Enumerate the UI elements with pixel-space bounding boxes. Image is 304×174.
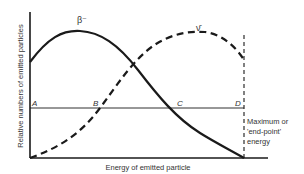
point-c-label: C bbox=[177, 99, 183, 108]
point-d-label: D bbox=[235, 99, 241, 108]
endpoint-annotation-line2: 'end-point' bbox=[247, 127, 282, 136]
endpoint-annotation-line3: energy bbox=[247, 137, 270, 146]
y-axis-title: Relative numbers of emitted particles bbox=[16, 24, 25, 148]
beta-decay-energy-diagram: β⁻ ν̄ A B C D Maximum or 'end-point' ene… bbox=[0, 0, 304, 174]
endpoint-annotation-line1: Maximum or bbox=[247, 117, 289, 126]
beta-curve bbox=[30, 31, 244, 158]
beta-label: β⁻ bbox=[77, 15, 87, 25]
point-a-label: A bbox=[31, 99, 37, 108]
point-b-label: B bbox=[93, 99, 99, 108]
x-axis-title: Energy of emitted particle bbox=[105, 163, 190, 172]
